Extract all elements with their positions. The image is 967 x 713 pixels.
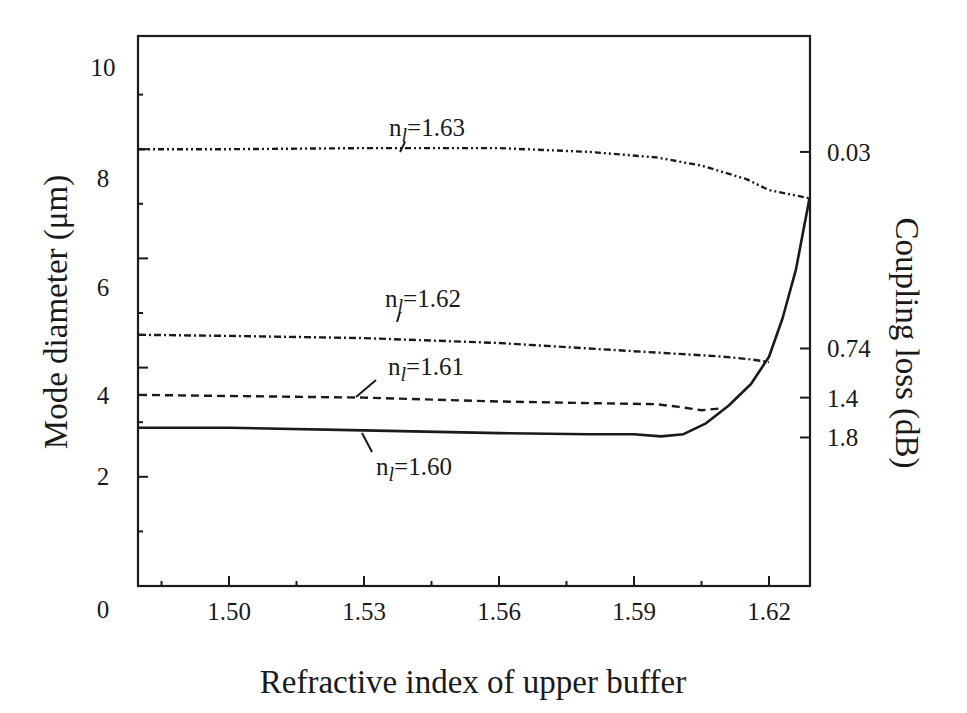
y-tick-label: 2 xyxy=(97,463,110,490)
plot-border xyxy=(138,36,810,586)
curve-label: nl=1.63 xyxy=(389,114,465,146)
y2-axis-title: Coupling loss (dB) xyxy=(888,217,925,468)
series-nl-1-63 xyxy=(139,148,810,198)
plot-frame xyxy=(138,36,810,586)
y-tick-label: 10 xyxy=(91,54,116,81)
y-tick-label: 4 xyxy=(97,382,110,409)
y-tick-label: 0 xyxy=(97,596,110,623)
curve-label: nl=1.61 xyxy=(388,353,464,385)
y-axis-title: Mode diameter (μm) xyxy=(38,175,75,449)
curve-label-leader xyxy=(362,433,372,452)
labels-layer: 1.501.531.561.591.6202468100.030.741.41.… xyxy=(91,54,872,625)
curve-label-leader xyxy=(356,380,376,397)
series-nl-1-60 xyxy=(139,198,810,436)
x-tick-label: 1.59 xyxy=(612,598,656,625)
x-tick-label: 1.50 xyxy=(207,598,251,625)
y-tick-label: 6 xyxy=(97,274,110,301)
curve-label: nl=1.60 xyxy=(376,453,452,485)
x-tick-label: 1.56 xyxy=(477,598,521,625)
y2-tick-label: 1.4 xyxy=(827,385,859,412)
series-nl-1-61 xyxy=(139,395,720,410)
series-layer xyxy=(139,148,810,436)
curve-label: nl=1.62 xyxy=(385,285,461,317)
y2-tick-label: 1.8 xyxy=(827,424,858,451)
x-tick-label: 1.53 xyxy=(342,598,386,625)
x-axis-title: Refractive index of upper buffer xyxy=(260,664,686,700)
chart-figure: 1.501.531.561.591.6202468100.030.741.41.… xyxy=(0,0,967,713)
y2-tick-label: 0.74 xyxy=(827,335,871,362)
y2-tick-label: 0.03 xyxy=(827,139,871,166)
x-tick-label: 1.62 xyxy=(747,598,791,625)
y-tick-label: 8 xyxy=(97,165,110,192)
